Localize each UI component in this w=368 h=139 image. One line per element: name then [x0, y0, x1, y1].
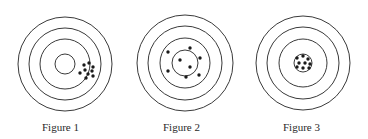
figure-3-caption: Figure 3: [283, 121, 320, 133]
target-figure-2: [137, 15, 233, 111]
shot-dot: [82, 63, 85, 66]
shot-dot: [78, 71, 81, 74]
shot-dot: [188, 46, 191, 49]
target-ring: [18, 17, 112, 111]
figure-1-caption: Figure 1: [42, 121, 79, 133]
shot-dot: [84, 76, 87, 79]
shot-dot: [198, 56, 201, 59]
shot-dot: [83, 68, 86, 71]
shot-dot: [307, 66, 310, 69]
target-figure-1: [18, 17, 112, 111]
target-figure-3: [256, 16, 350, 110]
shot-dot: [166, 50, 169, 53]
target-ring: [148, 26, 222, 100]
shot-dot: [295, 65, 298, 68]
shot-dot: [90, 69, 93, 72]
shot-dot: [301, 66, 304, 69]
shot-dot: [197, 73, 200, 76]
target-ring: [256, 16, 350, 110]
figure-2-caption: Figure 2: [163, 121, 200, 133]
target-diagram: [0, 0, 368, 139]
shot-dot: [91, 74, 94, 77]
shot-dot: [87, 61, 90, 64]
shot-dot: [301, 54, 304, 57]
target-ring: [267, 27, 339, 99]
target-ring: [160, 38, 210, 88]
target-ring: [55, 54, 75, 74]
shot-dot: [184, 75, 187, 78]
shot-dot: [178, 58, 181, 61]
shot-dot: [188, 65, 191, 68]
shot-dot: [86, 72, 89, 75]
target-ring: [172, 50, 198, 76]
shot-dot: [297, 61, 300, 64]
shot-dot: [308, 62, 311, 65]
shot-dot: [166, 69, 169, 72]
shot-dot: [306, 57, 309, 60]
shot-dot: [91, 65, 94, 68]
shot-dot: [303, 61, 306, 64]
target-ring: [40, 39, 90, 89]
target-ring: [279, 39, 327, 87]
shot-dot: [295, 56, 298, 59]
target-ring: [137, 15, 233, 111]
